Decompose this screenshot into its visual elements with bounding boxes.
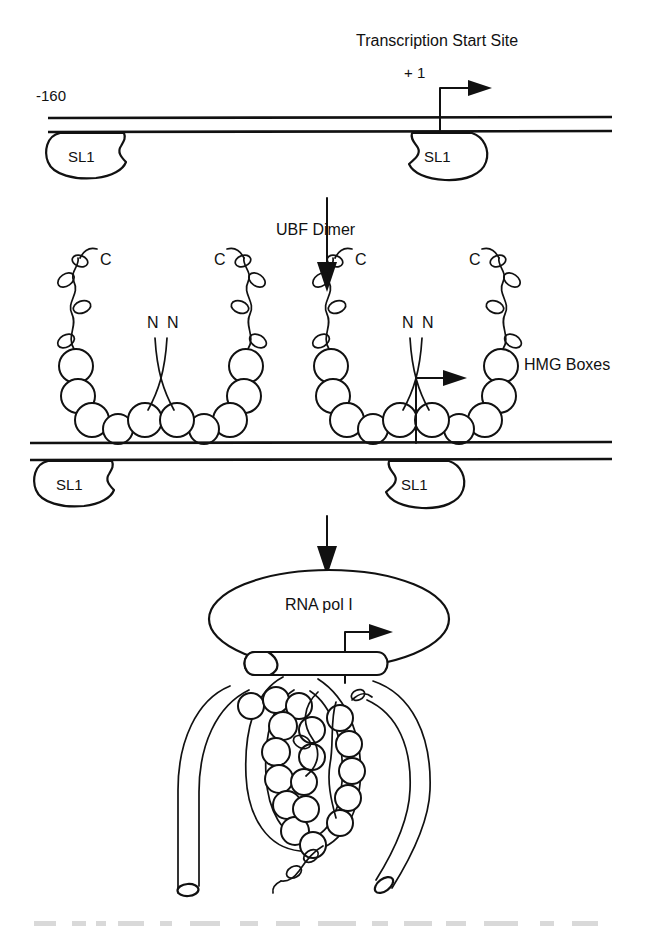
transcription-start-site-label: Transcription Start Site [356, 32, 518, 49]
n-label-left-2: N [167, 314, 179, 331]
ubf-dimer-label: UBF Dimer [276, 221, 356, 238]
sl1-blob-middle-right-label: SL1 [401, 476, 428, 493]
figure-root: Transcription Start Site + 1 -160 SL1 SL… [0, 0, 649, 930]
transcription-start-arrow [440, 80, 492, 130]
diagram-canvas: Transcription Start Site + 1 -160 SL1 SL… [0, 0, 649, 930]
caption-fragment [34, 921, 598, 926]
c-label-left-b: C [214, 251, 226, 268]
n-label-left-1: N [147, 314, 159, 331]
n-terminus-crossing-left [148, 338, 174, 410]
dna-tube-right-arm [367, 681, 430, 896]
dna-tube-left-arm [177, 686, 249, 897]
rna-pol-i-label: RNA pol I [285, 596, 353, 613]
n-label-right-1: N [402, 314, 414, 331]
c-terminal-tail-left-a [55, 248, 97, 350]
hmg-box-chain-left-arm-b [160, 349, 263, 444]
sl1-blob-top-right-label: SL1 [424, 148, 451, 165]
sl1-blob-top-right: SL1 [409, 133, 487, 180]
arrow-step-2-to-3 [317, 516, 337, 576]
hmg-box-chain-right-arm-a [314, 349, 417, 444]
sl1-blob-middle-right: SL1 [386, 461, 464, 508]
hmg-box-chain-left-arm-a [59, 349, 162, 444]
c-label-left-a: C [100, 251, 112, 268]
hmg-box-chain-bottom [238, 687, 365, 858]
ubf-dimer-left: N N C C [55, 248, 269, 444]
sl1-blob-top-left-label: SL1 [68, 148, 95, 165]
sl1-blob-middle-left: SL1 [34, 461, 114, 506]
n-label-right-2: N [422, 314, 434, 331]
sl1-blob-middle-left-label: SL1 [56, 476, 83, 493]
hmg-boxes-label: HMG Boxes [524, 356, 610, 373]
c-label-right-b: C [469, 251, 481, 268]
upstream-position-label: -160 [36, 87, 66, 104]
plus-one-label: + 1 [404, 64, 425, 81]
hmg-box-chain-right-arm-b [415, 349, 518, 444]
panel-top: Transcription Start Site + 1 -160 SL1 SL… [36, 32, 612, 180]
sl1-blob-top-left: SL1 [46, 133, 126, 178]
ubf-dimer-right: N N C [310, 248, 524, 444]
c-terminal-tail-right-b [482, 248, 524, 350]
c-terminal-tail-left-b [227, 248, 269, 350]
sl1-lozenge-pair [245, 652, 388, 675]
dna-duplex-top [48, 117, 612, 132]
panel-bottom: RNA pol I [177, 570, 449, 897]
c-label-right-a: C [355, 251, 367, 268]
